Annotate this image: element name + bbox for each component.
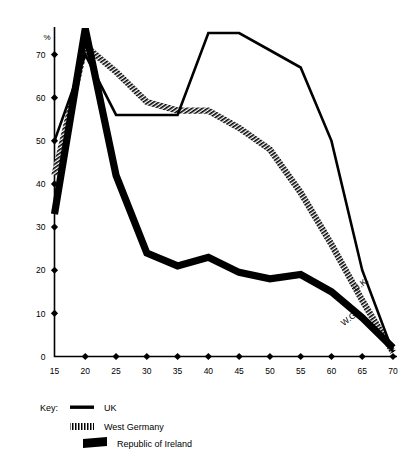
y-tick-label: 50	[36, 136, 46, 146]
x-tick-marker	[297, 353, 304, 360]
x-tick-label: 40	[204, 366, 214, 376]
x-tick-label: 55	[296, 366, 306, 376]
y-tick-marker	[51, 224, 58, 231]
x-tick-label: 30	[142, 366, 152, 376]
x-tick-label: 20	[81, 366, 91, 376]
line-chart: % 010203040506070 1520253035404550556065…	[0, 0, 414, 464]
legend-label-west-germany: West Germany	[104, 422, 164, 432]
y-tick-marker	[51, 94, 58, 101]
x-tick-marker	[174, 353, 181, 360]
x-tick-label: 50	[265, 366, 275, 376]
x-tick-marker	[266, 353, 273, 360]
chart-container: % 010203040506070 1520253035404550556065…	[0, 0, 414, 464]
chart-legend: Key: UK West Germany Republic of Ireland	[40, 403, 192, 449]
x-tick-label: 25	[111, 366, 121, 376]
x-tick-marker	[205, 353, 212, 360]
y-tick-marker	[51, 51, 58, 58]
x-tick-label: 60	[327, 366, 337, 376]
y-tick-marker	[51, 267, 58, 274]
x-tick-marker	[236, 353, 243, 360]
y-tick-label: 40	[36, 179, 46, 189]
legend-swatch-uk	[70, 406, 94, 409]
x-tick-marker	[389, 353, 396, 360]
y-tick-label: 20	[36, 265, 46, 275]
x-tick-label: 45	[234, 366, 244, 376]
y-tick-label: 60	[36, 93, 46, 103]
y-axis-unit-label: %	[43, 33, 50, 42]
x-tick-label: 70	[388, 366, 398, 376]
x-tick-label: 15	[50, 366, 60, 376]
x-tick-marker	[359, 353, 366, 360]
x-tick-label: 35	[173, 366, 183, 376]
legend-swatch-republic-of-ireland	[83, 437, 107, 448]
x-tick-label: 65	[357, 366, 367, 376]
x-tick-marker	[143, 353, 150, 360]
x-tick-marker	[112, 353, 119, 360]
y-tick-label: 10	[36, 309, 46, 319]
x-tick-marker	[328, 353, 335, 360]
legend-key-label: Key:	[40, 403, 58, 413]
legend-label-republic-of-ireland: Republic of Ireland	[117, 439, 192, 449]
x-tick-marker	[82, 353, 89, 360]
legend-label-uk: UK	[104, 403, 117, 413]
y-tick-marker	[51, 310, 58, 317]
y-tick-label: 30	[36, 222, 46, 232]
y-tick-label: 70	[36, 50, 46, 60]
y-tick-label: 0	[41, 352, 46, 362]
legend-swatch-west-germany	[70, 423, 94, 430]
inline-label-uk: U.K.	[351, 275, 370, 293]
